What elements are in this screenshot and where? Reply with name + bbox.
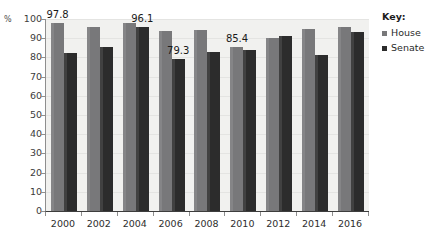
bar-highlight [100, 47, 103, 211]
x-axis-tick-mark [368, 212, 369, 216]
bar-highlight [338, 27, 341, 211]
y-axis-tick-label: 100 [8, 15, 42, 23]
data-value-label: 96.1 [131, 14, 153, 24]
bar-highlight [136, 27, 139, 212]
data-value-label: 79.3 [167, 46, 189, 56]
x-axis-tick-label: 2010 [222, 218, 262, 229]
bar-highlight [159, 31, 162, 211]
bar-chart: % 1009080706050403020100 97.896.179.385.… [0, 0, 430, 237]
y-axis: 1009080706050403020100 [0, 0, 42, 237]
x-axis-tick-mark [224, 212, 225, 216]
y-axis-tick-label: 0 [8, 207, 42, 215]
x-axis-tick-label: 2002 [79, 218, 119, 229]
bar-highlight [230, 47, 233, 211]
y-axis-tick-label: 50 [8, 111, 42, 119]
data-value-label: 97.8 [46, 10, 68, 20]
bar-group [261, 19, 297, 211]
plot-area: 97.896.179.385.4 [45, 19, 369, 212]
bar-house [51, 23, 64, 211]
x-axis-tick-label: 2008 [187, 218, 227, 229]
bar-highlight [51, 23, 54, 211]
x-axis-tick-mark [81, 212, 82, 216]
bar-highlight [123, 23, 126, 211]
bar-house [123, 23, 136, 211]
bar-group [46, 19, 82, 211]
bar-group [82, 19, 118, 211]
y-axis-tick-label: 70 [8, 73, 42, 81]
bar-group [297, 19, 333, 211]
x-axis-tick-label: 2014 [294, 218, 334, 229]
bar-house [194, 30, 207, 211]
bar-house [302, 29, 315, 211]
x-axis-tick-mark [332, 212, 333, 216]
bar-group [333, 19, 369, 211]
square-swatch-icon [382, 31, 387, 36]
bar-highlight [351, 32, 354, 211]
square-swatch-icon [382, 46, 387, 51]
bar-house [230, 47, 243, 211]
bar-highlight [315, 55, 318, 211]
x-axis: 200020022004200620082010201220142016 [45, 212, 369, 236]
bar-house [87, 27, 100, 211]
data-value-label: 85.4 [226, 34, 248, 44]
bar-house [338, 27, 351, 211]
y-axis-tick-label: 40 [8, 130, 42, 138]
bar-group [225, 19, 261, 211]
bar-house [266, 38, 279, 211]
x-axis-tick-mark [260, 212, 261, 216]
x-axis-tick-mark [189, 212, 190, 216]
x-axis-tick-label: 2004 [115, 218, 155, 229]
legend-item-house: House [382, 28, 430, 38]
bar-house [159, 31, 172, 211]
y-axis-tick-label: 60 [8, 92, 42, 100]
legend-item-senate: Senate [382, 43, 430, 53]
y-axis-tick-label: 30 [8, 149, 42, 157]
bar-senate [279, 36, 292, 211]
bar-group [118, 19, 154, 211]
x-axis-tick-mark [45, 212, 46, 216]
x-axis-tick-mark [296, 212, 297, 216]
bar-senate [64, 53, 77, 211]
x-axis-tick-mark [153, 212, 154, 216]
legend-item-label: House [391, 28, 421, 38]
legend: Key: House Senate [382, 12, 430, 58]
y-axis-tick-label: 90 [8, 34, 42, 42]
bar-highlight [194, 30, 197, 211]
legend-title: Key: [382, 12, 430, 22]
y-axis-tick-label: 80 [8, 53, 42, 61]
x-axis-tick-label: 2012 [258, 218, 298, 229]
bar-group [190, 19, 226, 211]
bar-highlight [279, 36, 282, 211]
bar-senate [207, 52, 220, 211]
bar-senate [315, 55, 328, 211]
x-axis-tick-label: 2006 [151, 218, 191, 229]
bar-senate [100, 47, 113, 211]
x-axis-tick-label: 2016 [330, 218, 370, 229]
bar-senate [351, 32, 364, 211]
x-axis-tick-mark [117, 212, 118, 216]
bar-highlight [266, 38, 269, 211]
bar-highlight [64, 53, 67, 211]
bar-highlight [207, 52, 210, 211]
bar-senate [136, 27, 149, 212]
x-axis-tick-label: 2000 [43, 218, 83, 229]
bar-senate [172, 59, 185, 211]
bar-highlight [172, 59, 175, 211]
legend-item-label: Senate [391, 43, 424, 53]
y-axis-tick-label: 20 [8, 169, 42, 177]
bar-highlight [87, 27, 90, 211]
bar-senate [243, 50, 256, 211]
bar-highlight [243, 50, 246, 211]
y-axis-tick-label: 10 [8, 188, 42, 196]
bar-highlight [302, 29, 305, 211]
